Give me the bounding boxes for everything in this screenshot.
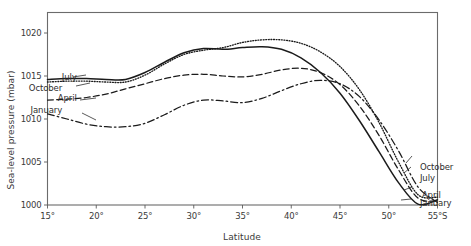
x-tick-label: 35° xyxy=(235,211,249,221)
leader-line-2 xyxy=(80,98,96,100)
series-label-april-left: April xyxy=(58,93,77,103)
series-line-january xyxy=(48,80,438,202)
leader-line-3 xyxy=(82,113,96,120)
x-tick-label: 45° xyxy=(333,211,347,221)
leader-line-right-3 xyxy=(401,199,411,200)
y-tick-label: 1010 xyxy=(21,114,42,124)
sea-level-pressure-line-chart: 10001005101010151020 15°20°25°30°35°40°4… xyxy=(0,0,471,246)
y-axis-tick-labels: 10001005101010151020 xyxy=(21,28,42,210)
y-tick-label: 1020 xyxy=(21,28,42,38)
x-tick-label: 40° xyxy=(284,211,298,221)
x-tick-label: 25° xyxy=(138,211,152,221)
y-tick-label: 1000 xyxy=(21,200,42,210)
x-tick-label: 55°S xyxy=(428,211,448,221)
data-series-group xyxy=(48,40,438,205)
series-label-october-left: October xyxy=(29,83,63,93)
x-axis-tick-labels: 15°20°25°30°35°40°45°50°55°S xyxy=(40,211,447,221)
x-tick-label: 50° xyxy=(382,211,396,221)
y-axis-title: Sea-level pressure (mbar) xyxy=(6,70,16,189)
series-line-october xyxy=(48,40,438,199)
series-line-april xyxy=(48,68,438,201)
series-annotations: JulyOctoberAprilJanuaryOctoberJulyAprilJ… xyxy=(29,72,454,208)
leader-line-right-0 xyxy=(406,156,412,163)
series-label-january-left: January xyxy=(30,105,63,115)
x-tick-label: 20° xyxy=(89,211,103,221)
series-line-july xyxy=(48,47,438,205)
annotation-leader-lines xyxy=(73,75,412,200)
figure-container: 10001005101010151020 15°20°25°30°35°40°4… xyxy=(0,0,471,246)
series-label-january-right: January xyxy=(419,198,452,208)
x-tick-label: 30° xyxy=(187,211,201,221)
x-axis-title: Latitude xyxy=(223,232,261,242)
y-tick-label: 1005 xyxy=(21,157,42,167)
leader-line-1 xyxy=(76,83,90,86)
y-tick-label: 1015 xyxy=(21,71,42,81)
series-label-october-right: October xyxy=(420,162,454,172)
plot-frame xyxy=(48,13,438,206)
x-tick-label: 15° xyxy=(40,211,54,221)
series-label-july-right: July xyxy=(419,173,435,183)
